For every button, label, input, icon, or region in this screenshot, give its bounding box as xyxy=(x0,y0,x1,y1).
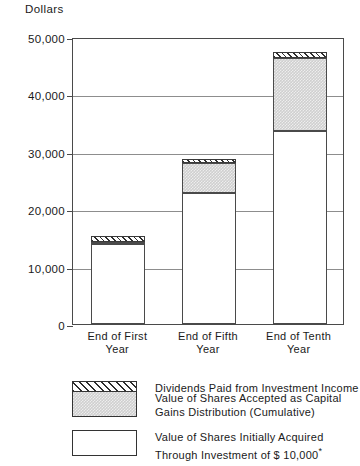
plot-area: 010,00020,00030,00040,00050,000 xyxy=(72,38,344,325)
legend-label-initial-shares-line2: Through Investment of $ 10,000* xyxy=(155,445,324,462)
y-tick-label-50000: 50,000 xyxy=(28,33,65,45)
y-tick-50000 xyxy=(67,39,73,40)
bar-3-segment-capital_gains xyxy=(273,58,327,131)
y-tick-label-30000: 30,000 xyxy=(28,148,65,160)
y-axis-title: Dollars xyxy=(25,3,64,15)
y-tick-30000 xyxy=(67,154,73,155)
x-axis-label-3-line1: End of Tenth xyxy=(239,330,359,343)
y-tick-40000 xyxy=(67,96,73,97)
legend-label-initial-shares: Value of Shares Initially Acquired Throu… xyxy=(155,430,324,462)
bar-3-segment-dividends xyxy=(273,52,327,58)
legend-label-capital-gains: Value of Shares Accepted as Capital Gain… xyxy=(155,391,342,419)
legend-swatch-capital-gains xyxy=(72,391,137,417)
legend-label-capital-gains-line2: Gains Distribution (Cumulative) xyxy=(155,406,342,420)
legend-label-initial-shares-line1: Value of Shares Initially Acquired xyxy=(155,431,324,445)
y-tick-label-40000: 40,000 xyxy=(28,90,65,102)
bar-2 xyxy=(182,159,236,324)
legend-label-capital-gains-line1: Value of Shares Accepted as Capital xyxy=(155,392,342,406)
bar-3 xyxy=(273,52,327,324)
bar-3-segment-initial_shares xyxy=(273,131,327,324)
y-tick-10000 xyxy=(67,269,73,270)
bar-1 xyxy=(91,238,145,324)
y-tick-0 xyxy=(67,326,73,327)
bar-2-segment-initial_shares xyxy=(182,193,236,324)
y-tick-label-20000: 20,000 xyxy=(28,205,65,217)
legend-label-initial-shares-line2-text: Through Investment of $ 10,000 xyxy=(155,448,318,460)
legend-item-capital-gains: Value of Shares Accepted as Capital Gain… xyxy=(72,391,342,419)
y-tick-20000 xyxy=(67,211,73,212)
legend-swatch-initial-shares xyxy=(72,430,137,456)
legend-asterisk: * xyxy=(318,446,322,456)
legend-item-initial-shares: Value of Shares Initially Acquired Throu… xyxy=(72,430,324,462)
bar-2-segment-capital_gains xyxy=(182,163,236,193)
bar-1-segment-dividends xyxy=(91,236,145,242)
y-tick-label-10000: 10,000 xyxy=(28,263,65,275)
x-axis-label-3-line2: Year xyxy=(239,343,359,356)
bar-1-segment-capital_gains xyxy=(91,242,145,244)
stacked-bar-chart: Dollars 010,00020,00030,00040,00050,000 … xyxy=(0,0,360,466)
bar-2-segment-dividends xyxy=(182,159,236,163)
x-axis-label-3: End of TenthYear xyxy=(239,330,359,356)
bar-1-segment-initial_shares xyxy=(91,244,145,324)
